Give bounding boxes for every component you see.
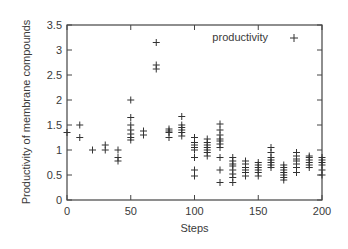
plus-marker-icon [191, 154, 198, 161]
plus-marker-icon [229, 179, 236, 186]
x-axis: 050100150200 [64, 25, 331, 217]
y-tick-label: 3 [56, 44, 62, 56]
x-axis-title: Steps [180, 222, 209, 234]
plus-marker-icon [102, 147, 109, 154]
y-tick-label: 3.5 [47, 19, 62, 31]
plus-marker-icon [76, 122, 83, 129]
legend: productivity [212, 31, 298, 43]
plus-marker-icon [217, 144, 224, 151]
y-tick-label: 0 [56, 194, 62, 206]
plus-marker-icon [217, 167, 224, 174]
y-tick-label: 2.5 [47, 69, 62, 81]
plus-marker-icon [242, 173, 249, 180]
x-tick-label: 200 [313, 205, 331, 217]
plus-marker-icon [166, 134, 173, 141]
plus-marker-icon [255, 173, 262, 180]
plus-marker-icon [191, 173, 198, 180]
plus-marker-icon [217, 179, 224, 186]
y-tick-label: 2 [56, 94, 62, 106]
plus-marker-icon [319, 172, 326, 179]
plus-marker-icon [191, 167, 198, 174]
plus-marker-icon [178, 133, 185, 140]
plus-marker-icon [204, 153, 211, 160]
plus-marker-icon [89, 147, 96, 154]
plus-marker-icon [217, 154, 224, 161]
x-tick-label: 100 [185, 205, 203, 217]
y-tick-label: 1.5 [47, 119, 62, 131]
legend-label: productivity [212, 31, 268, 43]
y-tick-label: 0.5 [47, 169, 62, 181]
data-points [64, 39, 326, 186]
plus-marker-icon [153, 66, 160, 73]
plus-marker-icon [153, 39, 160, 46]
plus-marker-icon [178, 113, 185, 120]
plus-marker-icon [127, 114, 134, 121]
x-tick-label: 0 [64, 205, 70, 217]
x-tick-label: 150 [249, 205, 267, 217]
plus-marker-icon [115, 147, 122, 154]
x-tick-label: 50 [125, 205, 137, 217]
plus-marker-icon [293, 169, 300, 176]
y-tick-label: 1 [56, 144, 62, 156]
plus-marker-icon [217, 121, 224, 128]
plus-marker-icon [64, 129, 71, 136]
y-axis-title: Productivity of membrane compounds [20, 19, 32, 204]
scatter-chart: 00.511.522.533.5 050100150200 Steps Prod… [0, 0, 348, 249]
plus-marker-icon [140, 132, 147, 139]
legend-plus-marker-icon [290, 34, 298, 42]
plus-marker-icon [127, 97, 134, 104]
plus-marker-icon [115, 158, 122, 165]
plus-marker-icon [76, 134, 83, 141]
